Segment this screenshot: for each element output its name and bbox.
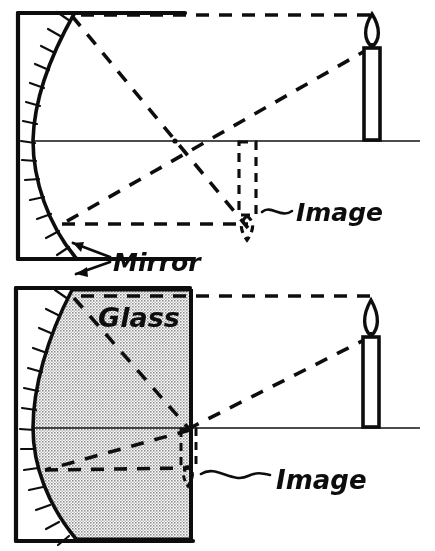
candle-flame-bottom bbox=[365, 300, 378, 336]
figure-canvas: Image Mirror bbox=[0, 0, 435, 551]
candle-body-top bbox=[364, 48, 380, 140]
candle-body-bottom bbox=[363, 337, 379, 427]
object-candle-bottom bbox=[363, 300, 379, 427]
optics-figure: Image Mirror bbox=[0, 0, 435, 551]
image-label-bottom: Image bbox=[276, 465, 367, 495]
mirror-label: Mirror bbox=[113, 248, 202, 277]
focal-point-top bbox=[172, 138, 177, 143]
object-candle-top bbox=[364, 14, 380, 140]
image-label-top: Image bbox=[296, 198, 383, 227]
candle-flame-top bbox=[366, 14, 379, 47]
glass-label: Glass bbox=[98, 302, 180, 333]
